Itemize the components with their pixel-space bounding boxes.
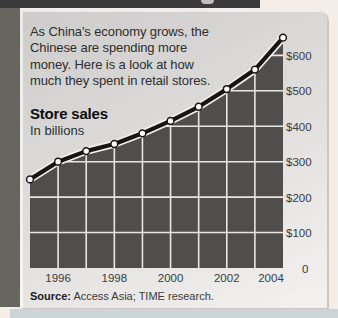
source-text: Access Asia; TIME research. <box>71 290 214 302</box>
data-point <box>223 86 230 93</box>
y-axis-labels: $600$500$400$300$200$1000 <box>286 50 312 275</box>
top-banner-bar <box>0 0 260 8</box>
chart-title: Store sales <box>30 105 108 122</box>
y-tick-label: $500 <box>286 85 312 97</box>
data-point <box>195 103 202 110</box>
x-tick-label: 1996 <box>45 272 71 284</box>
data-point <box>167 118 174 125</box>
source-line: Source: Access Asia; TIME research. <box>30 290 214 302</box>
intro-line: Chinese are spending more <box>30 40 210 56</box>
x-tick-label: 2002 <box>214 272 240 284</box>
intro-paragraph: As China's economy grows, the Chinese ar… <box>30 24 210 90</box>
x-tick-label: 1998 <box>102 272 128 284</box>
intro-line: much they spent in retail stores. <box>30 73 210 89</box>
data-point <box>111 141 118 148</box>
chart-title-block: Store sales In billions <box>30 105 108 138</box>
infographic-card: $600$500$400$300$200$1000199619982000200… <box>20 10 327 308</box>
chart-subtitle: In billions <box>30 123 108 138</box>
data-point <box>83 148 90 155</box>
y-tick-label: 0 <box>302 263 308 275</box>
data-point <box>139 130 146 137</box>
data-point <box>27 176 34 183</box>
y-tick-label: $200 <box>286 192 312 204</box>
y-tick-label: $400 <box>286 121 312 133</box>
data-point <box>280 34 287 41</box>
y-tick-label: $100 <box>286 227 312 239</box>
data-point <box>251 66 258 73</box>
x-axis-labels: 19961998200020022004 <box>45 272 284 284</box>
page-background: $600$500$400$300$200$1000199619982000200… <box>0 0 338 318</box>
data-point <box>55 158 62 165</box>
bottom-margin-strip <box>10 309 338 318</box>
y-tick-label: $600 <box>286 50 312 62</box>
y-tick-label: $300 <box>286 156 312 168</box>
source-label: Source: <box>30 290 71 302</box>
x-tick-label: 2004 <box>258 272 284 284</box>
intro-line: As China's economy grows, the <box>30 24 210 40</box>
intro-line: money. Here is a look at how <box>30 57 210 73</box>
cropped-text-notch <box>201 0 214 4</box>
x-tick-label: 2000 <box>158 272 184 284</box>
left-margin-strip <box>0 0 20 307</box>
